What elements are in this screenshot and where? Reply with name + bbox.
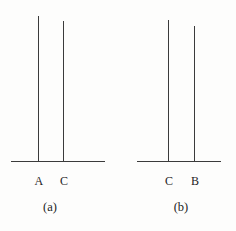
panel-caption-a: (a) — [33, 198, 67, 216]
baseline-axis-a — [11, 161, 105, 162]
tick-label-b-1: C — [162, 173, 176, 189]
panel-caption-b: (b) — [164, 198, 198, 216]
baseline-axis-b — [137, 161, 221, 162]
bar-b-2 — [194, 26, 195, 161]
tick-label-a-1: A — [32, 173, 46, 189]
figure-container: A C (a) C B (b) — [0, 0, 236, 231]
figure-panel-b: C B (b) — [118, 0, 236, 231]
figure-panel-a: A C (a) — [0, 0, 118, 231]
tick-label-b-2: B — [188, 173, 202, 189]
tick-label-a-2: C — [57, 173, 71, 189]
bar-a-1 — [38, 16, 39, 161]
bar-a-2 — [63, 21, 64, 161]
bar-b-1 — [168, 20, 169, 161]
